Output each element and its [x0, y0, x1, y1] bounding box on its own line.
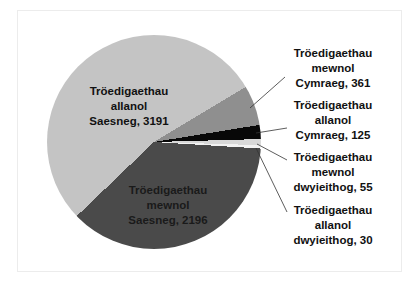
label-line: allanol — [84, 99, 174, 114]
label-line: Tröedigaethau — [283, 98, 383, 113]
slice-label-mewnol-dwyieithog: Tröedigaethau mewnol dwyieithog, 55 — [283, 150, 383, 195]
label-line: allanol — [283, 113, 383, 128]
label-line: Tröedigaethau — [84, 84, 174, 99]
label-line: Cymraeg, 361 — [283, 76, 383, 91]
label-line: allanol — [283, 218, 383, 233]
label-line: dwyieithog, 55 — [283, 180, 383, 195]
label-line: dwyieithog, 30 — [283, 233, 383, 248]
label-line: Saesneg, 3191 — [84, 114, 174, 129]
label-line: Tröedigaethau — [283, 46, 383, 61]
slice-label-allanol-saesneg: Tröedigaethau allanol Saesneg, 3191 — [84, 84, 174, 129]
label-line: Tröedigaethau — [283, 150, 383, 165]
label-line: Tröedigaethau — [283, 203, 383, 218]
slice-label-mewnol-cymraeg: Tröedigaethau mewnol Cymraeg, 361 — [283, 46, 383, 91]
label-line: mewnol — [283, 61, 383, 76]
slice-label-mewnol-saesneg: Tröedigaethau mewnol Saesneg, 2196 — [123, 183, 213, 228]
slice-label-allanol-cymraeg: Tröedigaethau allanol Cymraeg, 125 — [283, 98, 383, 143]
label-line: Cymraeg, 125 — [283, 128, 383, 143]
label-line: Saesneg, 2196 — [123, 213, 213, 228]
label-line: mewnol — [123, 198, 213, 213]
label-line: Tröedigaethau — [123, 183, 213, 198]
slice-label-allanol-dwyieithog: Tröedigaethau allanol dwyieithog, 30 — [283, 203, 383, 248]
label-line: mewnol — [283, 165, 383, 180]
